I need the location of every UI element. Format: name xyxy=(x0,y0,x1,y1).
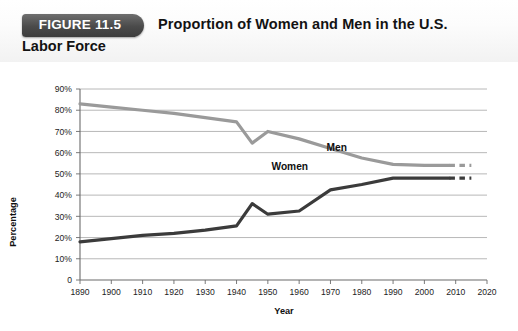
x-axis-tick-label: 1930 xyxy=(196,287,215,297)
y-axis-title: Percentage xyxy=(8,197,18,247)
figure-number-badge: FIGURE 11.5 xyxy=(22,14,144,37)
y-axis-tick-label: 60% xyxy=(55,148,73,158)
series-label-men: Men xyxy=(327,142,347,153)
y-axis-tick-label: 80% xyxy=(55,105,73,115)
figure-title-line-1: Proportion of Women and Men in the U.S. xyxy=(158,14,508,35)
x-axis-tick-label: 1900 xyxy=(102,287,121,297)
series-line-women xyxy=(80,178,449,242)
figure-number-label: FIGURE 11.5 xyxy=(22,17,138,32)
y-axis-tick-labels-group: 010%20%30%40%50%60%70%80%90% xyxy=(55,84,73,285)
figure-header: FIGURE 11.5 Proportion of Women and Men … xyxy=(0,0,518,62)
y-axis-tick-label: 50% xyxy=(55,169,73,179)
x-axis-title: Year xyxy=(274,306,294,316)
series-label-women: Women xyxy=(271,161,308,172)
chart-container: 010%20%30%40%50%60%70%80%90% 18901900191… xyxy=(0,62,518,331)
x-axis-tick-label: 1910 xyxy=(133,287,152,297)
x-axis-tick-label: 2000 xyxy=(415,287,434,297)
x-axis-tick-label: 2020 xyxy=(477,287,496,297)
y-axis-tick-label: 70% xyxy=(55,127,73,137)
x-axis-tick-label: 1960 xyxy=(290,287,309,297)
y-axis-tick-label: 10% xyxy=(55,254,73,264)
x-axis-ticks-group xyxy=(80,280,487,284)
x-axis-tick-label: 1970 xyxy=(321,287,340,297)
y-axis-tick-label: 0 xyxy=(67,275,72,285)
y-axis-ticks-group xyxy=(76,89,80,280)
y-axis-tick-label: 40% xyxy=(55,190,73,200)
y-axis-tick-label: 90% xyxy=(55,84,73,94)
x-axis-tick-label: 1980 xyxy=(352,287,371,297)
axis-lines-group xyxy=(80,89,487,280)
x-axis-tick-label: 2010 xyxy=(446,287,465,297)
y-axis-tick-label: 20% xyxy=(55,233,73,243)
x-axis-tick-label: 1890 xyxy=(70,287,89,297)
line-chart: 010%20%30%40%50%60%70%80%90% 18901900191… xyxy=(0,62,518,331)
x-axis-tick-label: 1920 xyxy=(164,287,183,297)
x-axis-tick-label: 1950 xyxy=(258,287,277,297)
gridlines-group xyxy=(80,89,487,259)
data-series-group xyxy=(80,104,471,242)
y-axis-tick-label: 30% xyxy=(55,212,73,222)
x-axis-tick-labels-group: 1890190019101920193019401950196019701980… xyxy=(70,287,496,297)
x-axis-tick-label: 1990 xyxy=(384,287,403,297)
figure-title-line-2: Labor Force xyxy=(22,36,106,57)
x-axis-tick-label: 1940 xyxy=(227,287,246,297)
series-line-men xyxy=(80,104,449,166)
series-inline-labels-group: MenWomen xyxy=(271,142,346,172)
